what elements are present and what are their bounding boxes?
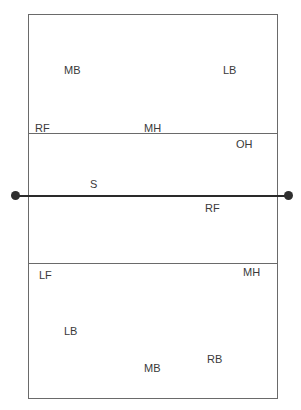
net-post-left-icon — [11, 191, 20, 200]
player-rf-center: RF — [205, 202, 220, 214]
net — [15, 195, 289, 197]
player-mb-bottom: MB — [144, 362, 161, 374]
player-rb: RB — [207, 353, 222, 365]
player-mb-top: MB — [64, 64, 81, 76]
player-s: S — [90, 178, 97, 190]
player-mh-top: MH — [144, 122, 161, 134]
player-oh: OH — [236, 138, 253, 150]
player-lb-top: LB — [223, 64, 236, 76]
player-lb-bottom: LB — [64, 325, 77, 337]
player-mh-bottom: MH — [243, 266, 260, 278]
attack-line-bottom — [28, 263, 278, 264]
net-post-right-icon — [284, 191, 293, 200]
player-rf-top: RF — [35, 122, 50, 134]
player-lf: LF — [39, 269, 52, 281]
